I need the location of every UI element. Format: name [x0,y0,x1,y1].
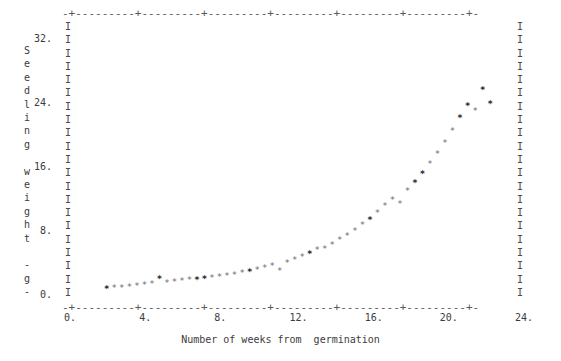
x-axis-tick-label: 4. [139,313,179,323]
data-point: * [127,289,130,292]
data-point: * [367,222,370,225]
data-point: * [337,242,340,245]
data-point: * [232,277,235,280]
data-point: * [322,251,325,254]
x-axis-tick-label: 16. [365,313,405,323]
data-point: * [284,265,287,268]
data-point: * [104,291,107,294]
x-axis-tick-label: 8. [214,313,254,323]
data-point: * [209,280,212,283]
x-axis-caption: Number of weeks from germination [0,335,561,345]
data-point: * [187,282,190,285]
data-point: * [465,108,468,111]
data-point: * [202,281,205,284]
data-point: * [390,202,393,205]
x-axis-tick-label: 0. [64,313,104,323]
data-point: * [269,268,272,271]
data-point: * [172,284,175,287]
x-axis-tick-label: 20. [440,313,480,323]
data-point: * [247,274,250,277]
data-point: * [179,283,182,286]
data-point: * [254,272,257,275]
data-point: * [375,215,378,218]
data-point: * [397,206,400,209]
data-point: * [427,166,430,169]
data-point: * [134,288,137,291]
data-point: * [224,278,227,281]
data-point: * [480,92,483,95]
data-point: * [307,256,310,259]
data-point: * [262,270,265,273]
data-point: * [194,282,197,285]
data-point: * [149,286,152,289]
data-point: * [405,193,408,196]
data-point: * [277,273,280,276]
data-point: * [239,275,242,278]
data-point: * [315,252,318,255]
data-point: * [330,247,333,250]
data-point: * [472,113,475,116]
data-point: * [450,133,453,136]
data-point: * [360,227,363,230]
data-point: * [412,185,415,188]
data-point: * [382,208,385,211]
data-point: * [300,259,303,262]
data-point: * [119,290,122,293]
data-point: * [352,233,355,236]
data-point: * [435,156,438,159]
data-point: * [112,290,115,293]
data-point: * [345,238,348,241]
data-point: * [217,279,220,282]
data-point: * [457,120,460,123]
data-point: * [420,176,423,179]
ascii-plot-canvas: -+---------+---------+---------+--------… [0,0,561,361]
data-point: * [142,287,145,290]
data-point: * [157,281,160,284]
x-axis-tick-label: 12. [290,313,330,323]
data-point: * [164,285,167,288]
data-point: * [292,262,295,265]
data-point: * [442,145,445,148]
x-axis-tick-label: 24. [515,313,555,323]
data-point: * [487,106,490,109]
